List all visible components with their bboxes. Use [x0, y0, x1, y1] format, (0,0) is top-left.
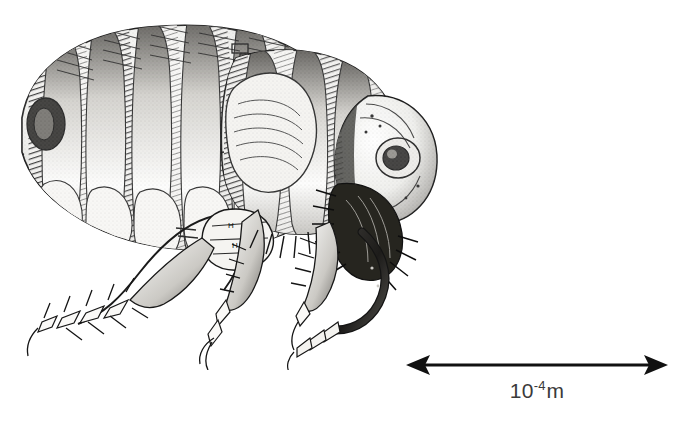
flea-illustration: HH [0, 0, 470, 370]
scale-exponent: -4 [534, 378, 546, 393]
figure-plate: HH [0, 0, 697, 424]
scale-bar: 10-4m [404, 348, 670, 418]
scale-mantissa: 10 [510, 379, 534, 402]
scale-bar-arrow [404, 348, 670, 382]
scale-unit: m [546, 379, 564, 402]
scale-bar-label: 10-4m [404, 378, 670, 403]
svg-text:H: H [228, 221, 234, 230]
